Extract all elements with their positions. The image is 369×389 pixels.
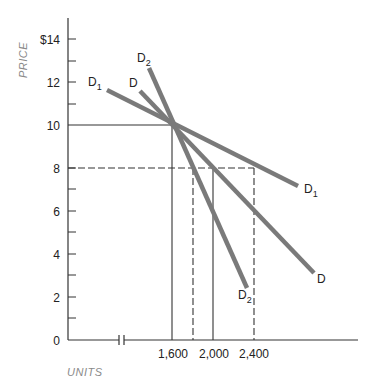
- x-tick-2000: 2,000: [199, 347, 229, 361]
- x-tick-2400: 2,400: [239, 347, 269, 361]
- y-tick-10: 10: [47, 119, 61, 133]
- y-tick-6: 6: [53, 205, 60, 219]
- y-ticks: [68, 39, 76, 318]
- demand-chart: $14 12 10 8 6 4 2 0 PRICE UNITS 1,600 2,…: [0, 0, 369, 389]
- y-tick-4: 4: [53, 248, 60, 262]
- curve-labels: D1 D D2 D1 D D2: [88, 51, 326, 305]
- x-tick-1600: 1,600: [158, 347, 188, 361]
- label-d1-right: D1: [304, 182, 318, 199]
- y-axis-title: PRICE: [17, 42, 29, 78]
- label-d1-left: D1: [88, 75, 102, 92]
- y-tick-labels: $14 12 10 8 6 4 2 0: [40, 33, 60, 348]
- y-tick-12: 12: [47, 76, 61, 90]
- x-axis-title: UNITS: [67, 366, 103, 378]
- curve-d2: [149, 68, 247, 288]
- x-tick-labels: 1,600 2,000 2,400: [158, 347, 269, 361]
- label-d2-right: D2: [238, 288, 252, 305]
- label-d2-left: D2: [137, 51, 151, 68]
- demand-curves: [107, 68, 314, 288]
- label-d-right: D: [317, 272, 326, 286]
- label-d-left: D: [129, 76, 138, 90]
- y-tick-14: $14: [40, 33, 60, 47]
- y-tick-2: 2: [53, 291, 60, 305]
- y-tick-8: 8: [53, 162, 60, 176]
- reference-lines: [68, 125, 254, 340]
- curve-d1: [107, 90, 298, 186]
- y-tick-0: 0: [53, 334, 60, 348]
